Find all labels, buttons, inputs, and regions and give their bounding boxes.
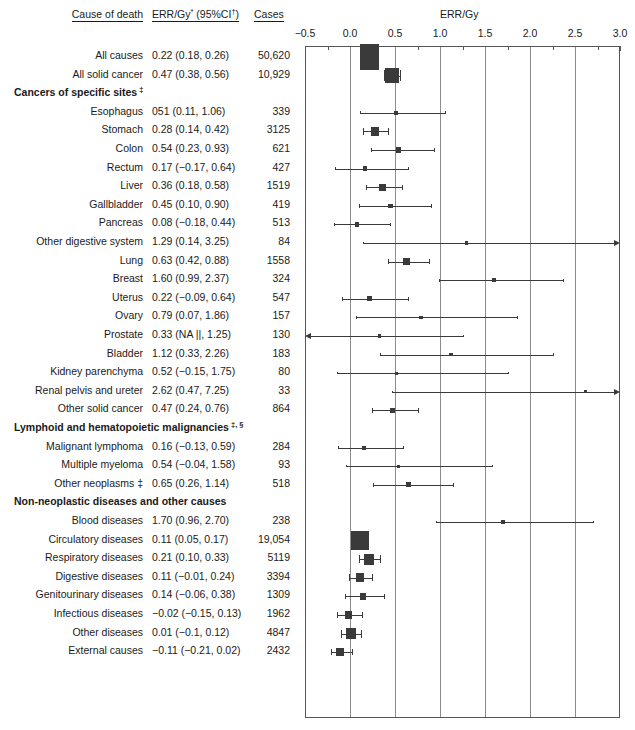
axis-tick-label: 1.0 bbox=[433, 27, 448, 39]
axis-tick-label: −0.5 bbox=[295, 27, 316, 39]
confidence-interval-line bbox=[392, 392, 614, 393]
point-estimate-marker bbox=[346, 628, 356, 639]
ci-cap-upper bbox=[418, 408, 419, 412]
point-estimate-marker bbox=[371, 127, 379, 136]
point-estimate-marker bbox=[584, 390, 587, 393]
ci-cap-lower bbox=[388, 259, 389, 264]
ci-cap-upper bbox=[429, 259, 430, 264]
ci-cap-upper bbox=[390, 223, 391, 227]
ci-cap-upper bbox=[402, 185, 403, 190]
gridline bbox=[485, 47, 486, 717]
ci-cap-upper bbox=[400, 70, 401, 81]
confidence-interval-line bbox=[311, 336, 463, 337]
ci-cap-lower bbox=[366, 185, 367, 190]
confidence-interval-line bbox=[346, 466, 492, 467]
axis-tick-label: 3.0 bbox=[613, 27, 628, 39]
ci-arrow-right bbox=[614, 240, 620, 246]
ci-cap-upper bbox=[380, 555, 381, 563]
confidence-interval-line bbox=[363, 243, 614, 244]
point-estimate-marker bbox=[367, 296, 372, 301]
axis-tick bbox=[620, 46, 621, 51]
gridline bbox=[575, 47, 576, 717]
confidence-interval-line bbox=[338, 448, 403, 449]
ci-cap-upper bbox=[492, 465, 493, 467]
plot-frame bbox=[305, 46, 620, 718]
ci-cap-upper bbox=[408, 297, 409, 301]
ci-cap-lower bbox=[341, 630, 342, 638]
plot-title: ERR/Gy bbox=[440, 8, 479, 20]
confidence-interval-line bbox=[335, 169, 408, 170]
confidence-interval-line bbox=[373, 485, 452, 486]
ci-cap-upper bbox=[384, 594, 385, 599]
ci-cap-upper bbox=[593, 521, 594, 524]
point-estimate-marker bbox=[379, 184, 385, 191]
ci-cap-upper bbox=[361, 630, 362, 638]
ci-cap-lower bbox=[349, 574, 350, 581]
ci-cap-lower bbox=[360, 111, 361, 114]
point-estimate-marker bbox=[363, 166, 367, 171]
axis-tick-label: 0.5 bbox=[388, 27, 403, 39]
point-estimate-marker bbox=[406, 482, 411, 487]
ci-cap-lower bbox=[380, 353, 381, 356]
ci-cap-lower bbox=[342, 297, 343, 301]
confidence-interval-line bbox=[360, 113, 446, 114]
ci-cap-lower bbox=[373, 483, 374, 487]
confidence-interval-line bbox=[380, 355, 554, 356]
ci-cap-lower bbox=[359, 555, 360, 563]
ci-cap-lower bbox=[345, 594, 346, 599]
ci-cap-lower bbox=[337, 612, 338, 618]
ci-cap-upper bbox=[453, 483, 454, 487]
confidence-interval-line bbox=[439, 280, 563, 281]
ci-cap-lower bbox=[346, 465, 347, 467]
point-estimate-marker bbox=[449, 353, 453, 357]
ci-cap-lower bbox=[392, 391, 393, 393]
point-estimate-marker bbox=[501, 520, 505, 524]
point-estimate-marker bbox=[364, 554, 374, 565]
ci-cap-lower bbox=[337, 372, 338, 374]
point-estimate-marker bbox=[336, 648, 344, 656]
gridline bbox=[440, 47, 441, 717]
ci-cap-upper bbox=[463, 335, 464, 338]
axis-tick-label: 0.0 bbox=[343, 27, 358, 39]
point-estimate-marker bbox=[395, 372, 398, 375]
point-estimate-marker bbox=[492, 278, 496, 282]
ci-cap-lower bbox=[363, 128, 364, 135]
point-estimate-marker bbox=[419, 316, 422, 320]
ci-cap-lower bbox=[356, 316, 357, 319]
ci-cap-lower bbox=[334, 223, 335, 227]
axis-tick-label: 2.5 bbox=[568, 27, 583, 39]
ci-cap-lower bbox=[372, 408, 373, 412]
confidence-interval-line bbox=[436, 522, 593, 523]
confidence-interval-line bbox=[372, 410, 419, 411]
point-estimate-marker bbox=[362, 446, 366, 450]
ci-cap-upper bbox=[388, 128, 389, 135]
ci-cap-upper bbox=[372, 574, 373, 581]
ci-cap-upper bbox=[352, 649, 353, 655]
gridline bbox=[530, 47, 531, 717]
ci-cap-upper bbox=[445, 111, 446, 114]
point-estimate-marker bbox=[351, 531, 369, 550]
confidence-interval-line bbox=[337, 373, 508, 374]
ci-cap-lower bbox=[335, 167, 336, 170]
ci-cap-lower bbox=[439, 279, 440, 282]
forest-plot-panel: ERR/Gy −0.50.00.51.01.52.02.53.0 bbox=[0, 0, 635, 730]
ci-cap-lower bbox=[363, 242, 364, 244]
ci-cap-upper bbox=[517, 316, 518, 319]
point-estimate-marker bbox=[465, 241, 468, 244]
confidence-interval-line bbox=[356, 317, 517, 318]
ci-cap-lower bbox=[338, 446, 339, 449]
point-estimate-marker bbox=[360, 593, 366, 600]
confidence-interval-line bbox=[334, 224, 390, 225]
ci-cap-lower bbox=[331, 649, 332, 655]
confidence-interval-line bbox=[371, 150, 434, 151]
point-estimate-marker bbox=[360, 44, 379, 70]
confidence-interval-line bbox=[359, 206, 431, 207]
point-estimate-marker bbox=[345, 611, 352, 619]
point-estimate-marker bbox=[403, 258, 410, 265]
ci-cap-upper bbox=[434, 148, 435, 152]
ci-cap-lower bbox=[371, 148, 372, 152]
confidence-interval-line bbox=[342, 299, 408, 300]
ci-cap-lower bbox=[436, 521, 437, 524]
forest-plot-figure: Cause of death ERR/Gy* (95%CI†) Cases Al… bbox=[0, 0, 635, 730]
point-estimate-marker bbox=[396, 147, 401, 152]
